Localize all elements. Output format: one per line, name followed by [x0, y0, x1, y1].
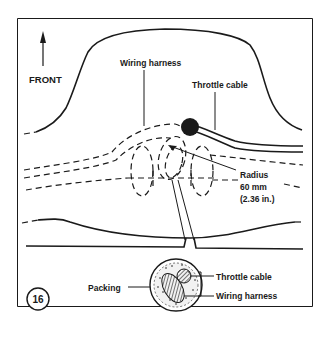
throttle-cable-section	[177, 269, 191, 283]
throttle-cable-grommet	[181, 118, 199, 136]
right-dashed-line-3	[284, 184, 303, 188]
harness-route-lower2	[26, 178, 128, 190]
figure-frame-outer	[18, 19, 313, 153]
wiring-harness-label: Wiring harness	[120, 58, 182, 68]
figure-number: 16	[32, 294, 44, 305]
frame-tube-lower-right	[194, 238, 303, 249]
tank-outline	[36, 29, 302, 132]
section-line-2	[178, 180, 194, 240]
throttle-cable-detail-label: Throttle cable	[216, 272, 272, 282]
radius-label: Radius	[240, 170, 269, 180]
tank-outline-dash	[24, 132, 36, 134]
radius-value-in: (2.36 in.)	[240, 194, 275, 204]
right-dashed-line-1	[210, 155, 303, 165]
packing-label: Packing	[88, 283, 121, 293]
radius-leader	[170, 146, 236, 170]
figure-16: FRONT Wiring harness Throttle cable Radi…	[0, 0, 325, 339]
dashed-loop-outer	[154, 133, 191, 182]
throttle-cable-label: Throttle cable	[192, 80, 248, 90]
frame-tube-upper	[38, 219, 295, 238]
cross-section-detail	[150, 259, 202, 311]
dashed-oval-left	[131, 146, 153, 196]
harness-route-lower	[24, 138, 170, 178]
front-label: FRONT	[29, 74, 62, 85]
section-line-1	[172, 180, 185, 240]
radius-value-mm: 60 mm	[240, 182, 267, 192]
wiring-harness-detail-label: Wiring harness	[216, 291, 278, 301]
front-arrow-icon	[40, 31, 46, 66]
figure-frame	[18, 19, 313, 153]
frame-tube-upper-dash-left	[22, 220, 38, 223]
throttle-cable	[190, 124, 303, 146]
dashed-loop-inner	[162, 144, 186, 179]
dashed-oval-right	[191, 146, 213, 196]
frame-tube-lower	[26, 238, 186, 247]
